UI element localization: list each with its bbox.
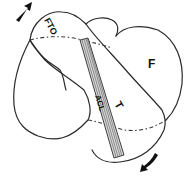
label-femur: F: [148, 57, 155, 71]
label-tibia: T: [112, 99, 126, 111]
upper-lobe-outline: [30, 12, 118, 40]
arrow-down-left-icon: [140, 153, 158, 172]
femur-outline: [116, 27, 182, 120]
dashed-line-bottom: [88, 120, 166, 131]
inner-curve: [30, 40, 66, 90]
dashed-line-top: [30, 37, 112, 48]
knee-diagram: FTO F T ACL: [0, 0, 196, 183]
arrow-up-right-icon: [16, 2, 32, 22]
label-top: FTO: [42, 16, 59, 36]
left-bone-outline: [14, 40, 90, 139]
